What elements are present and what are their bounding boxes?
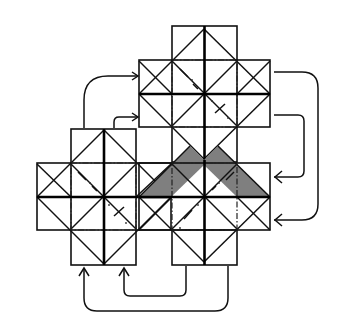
arrow-top-to-bottom-right-inner xyxy=(274,115,304,183)
arrow-bottom-right-to-left-inner xyxy=(119,266,186,296)
arrow-left-to-top-upper xyxy=(84,72,138,128)
arrow-bottom-right-to-left-outer xyxy=(79,266,228,311)
folding-diagram xyxy=(0,0,342,330)
arrow-top-to-bottom-right-outer xyxy=(274,72,318,226)
top-unit xyxy=(139,26,270,162)
arrow-left-to-top-lower xyxy=(114,113,138,128)
